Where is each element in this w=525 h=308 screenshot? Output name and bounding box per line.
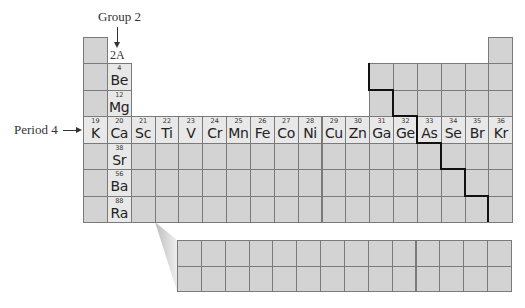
- element-cell: [441, 169, 466, 196]
- element-be: 4Be: [107, 63, 132, 90]
- element-cell: [345, 169, 370, 196]
- staircase-segment: [440, 168, 466, 170]
- element-cell: [441, 196, 466, 223]
- lanthanide-cell: [416, 240, 441, 267]
- lanthanide-cell: [344, 240, 369, 267]
- element-cell: [369, 196, 394, 223]
- element-ra: 88Ra: [107, 196, 132, 223]
- element-cell: [155, 143, 180, 170]
- element-cell: [345, 143, 370, 170]
- lanthanide-cell: [272, 240, 297, 267]
- lanthanide-cell: [201, 240, 226, 267]
- element-cell: [417, 169, 442, 196]
- actinide-cell: [296, 266, 321, 293]
- atomic-number: 33: [418, 118, 441, 125]
- actinide-cell: [344, 266, 369, 293]
- element-cell: [393, 63, 418, 90]
- staircase-segment: [464, 168, 466, 195]
- element-cell: [155, 169, 180, 196]
- element-cell: [178, 196, 203, 223]
- element-mg: 12Mg: [107, 90, 132, 117]
- element-cell: [441, 143, 466, 170]
- atomic-number: 88: [108, 198, 131, 205]
- element-cell: [369, 143, 394, 170]
- actinide-cell: [439, 266, 464, 293]
- lanthanide-cell: [296, 240, 321, 267]
- element-symbol: Be: [105, 72, 134, 89]
- staircase-segment: [440, 142, 442, 169]
- element-cell: [131, 143, 156, 170]
- actinide-cell: [463, 266, 488, 293]
- atomic-number: 20: [108, 118, 131, 125]
- atomic-number: 19: [84, 118, 107, 125]
- period-label: Period 4: [14, 122, 58, 138]
- element-cell: [393, 90, 418, 117]
- actinide-cell: [416, 266, 441, 293]
- element-cell: [465, 90, 490, 117]
- element-cell: [274, 143, 299, 170]
- atomic-number: 32: [394, 118, 417, 125]
- staircase-segment: [368, 89, 394, 91]
- element-ba: 56Ba: [107, 169, 132, 196]
- element-cell: [298, 169, 323, 196]
- atomic-number: 29: [323, 118, 346, 125]
- element-cell: [83, 37, 108, 64]
- lanthanide-cell: [225, 240, 250, 267]
- element-cell: [465, 143, 490, 170]
- staircase-segment: [392, 89, 394, 116]
- element-cell: [322, 143, 347, 170]
- element-cell: [417, 143, 442, 170]
- element-cell: [155, 196, 180, 223]
- actinide-cell: [320, 266, 345, 293]
- element-cell: [417, 196, 442, 223]
- element-cell: [298, 143, 323, 170]
- actinide-cell: [368, 266, 393, 293]
- actinide-cell: [392, 266, 417, 293]
- element-cell: [369, 63, 394, 90]
- actinide-cell: [177, 266, 202, 293]
- lanthanide-cell: [439, 240, 464, 267]
- element-cell: [417, 90, 442, 117]
- element-cell: [202, 169, 227, 196]
- staircase-segment: [416, 142, 442, 144]
- element-cell: [131, 196, 156, 223]
- atomic-number: 36: [489, 118, 512, 125]
- element-cell: [441, 90, 466, 117]
- atomic-number: 12: [108, 92, 131, 99]
- element-cell: [298, 196, 323, 223]
- atomic-number: 34: [442, 118, 465, 125]
- element-cell: [345, 196, 370, 223]
- element-cell: [202, 196, 227, 223]
- staircase-segment: [464, 195, 490, 197]
- element-cell: [488, 90, 513, 117]
- element-symbol: Ba: [105, 178, 134, 195]
- element-cell: [226, 196, 251, 223]
- atomic-number: 21: [132, 118, 155, 125]
- lanthanide-cell: [177, 240, 202, 267]
- element-cell: [488, 196, 513, 223]
- element-sr: 38Sr: [107, 143, 132, 170]
- element-kr: 36Kr: [488, 116, 513, 143]
- element-cell: [202, 143, 227, 170]
- element-cell: [369, 169, 394, 196]
- actinide-cell: [225, 266, 250, 293]
- lanthanide-cell: [392, 240, 417, 267]
- staircase-segment: [416, 115, 418, 142]
- actinide-cell: [249, 266, 274, 293]
- lanthanide-cell: [249, 240, 274, 267]
- staircase-segment: [392, 115, 418, 117]
- actinide-cell: [487, 266, 512, 293]
- element-cell: [274, 196, 299, 223]
- atomic-number: 4: [108, 65, 131, 72]
- group-code-label: 2A: [110, 48, 125, 63]
- atomic-number: 35: [466, 118, 489, 125]
- lanthanide-cell: [320, 240, 345, 267]
- atomic-number: 22: [156, 118, 179, 125]
- lanthanide-connector: [155, 222, 177, 291]
- element-cell: [178, 143, 203, 170]
- group-arrow-icon: [117, 27, 118, 43]
- element-cell: [250, 169, 275, 196]
- element-cell: [274, 169, 299, 196]
- element-cell: [488, 143, 513, 170]
- atomic-number: 31: [370, 118, 393, 125]
